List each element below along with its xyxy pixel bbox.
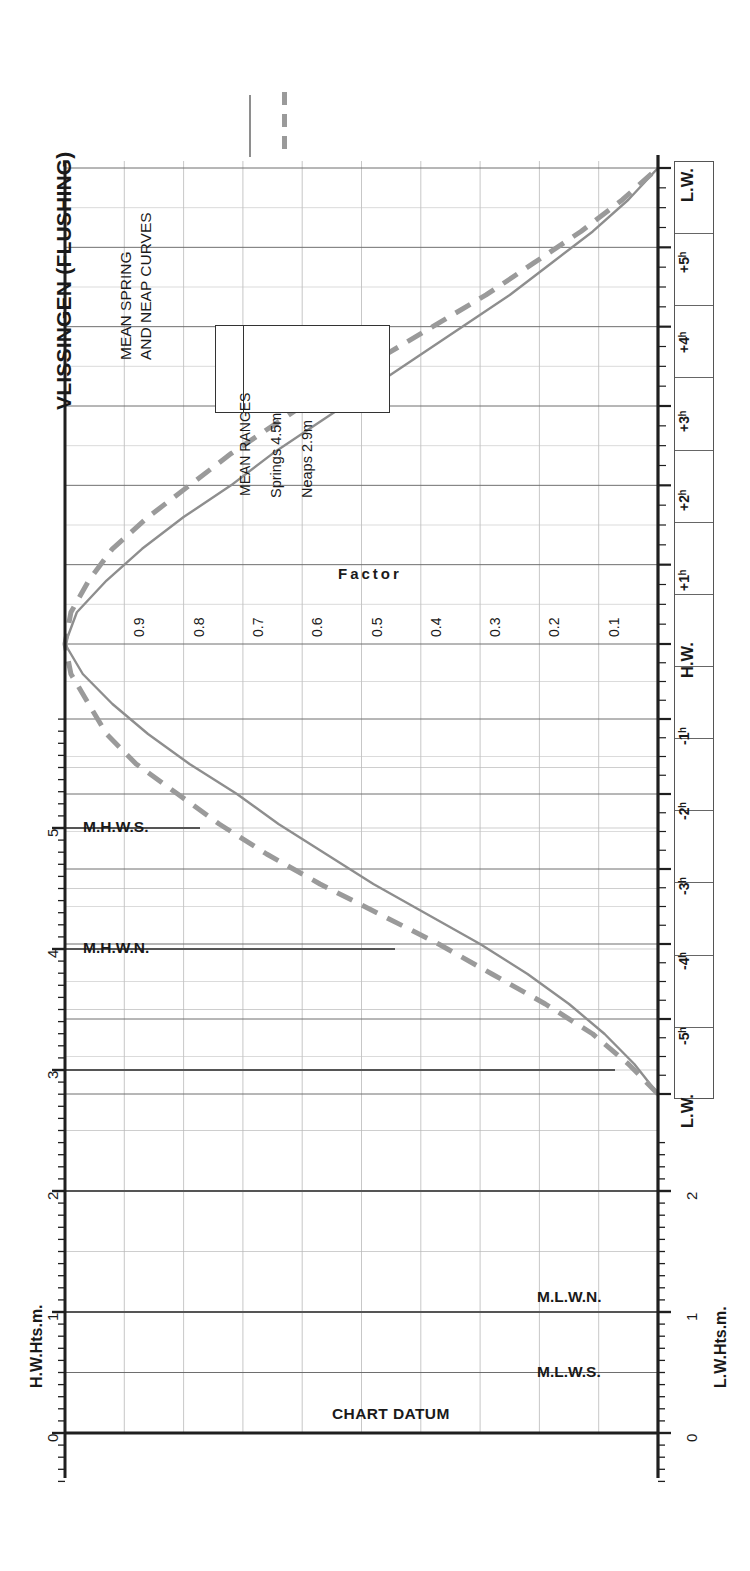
legend-item-neaps: Neaps 2.9m bbox=[299, 420, 315, 498]
legend-swatch-neaps bbox=[282, 92, 287, 158]
factor-tick-0.5: 0.5 bbox=[369, 618, 385, 637]
time-tick-1: +5ʰ bbox=[676, 252, 692, 273]
factor-tick-0.4: 0.4 bbox=[428, 618, 444, 637]
label-chart-datum: CHART DATUM bbox=[332, 1405, 450, 1423]
factor-tick-0.6: 0.6 bbox=[309, 618, 325, 637]
label-mlws: M.L.W.S. bbox=[537, 1363, 601, 1381]
left-axis-tick-2: 2 bbox=[44, 1192, 61, 1200]
label-mlwn: M.L.W.N. bbox=[537, 1288, 602, 1306]
left-axis-tick-0: 0 bbox=[44, 1434, 61, 1442]
time-entry-cell[interactable] bbox=[675, 451, 713, 523]
label-mhwn: M.H.W.N. bbox=[83, 939, 149, 957]
factor-tick-0.3: 0.3 bbox=[487, 618, 503, 637]
time-entry-cell[interactable] bbox=[675, 739, 713, 811]
left-axis-tick-1: 1 bbox=[44, 1313, 61, 1321]
legend-heading-cell: MEAN RANGES bbox=[216, 326, 244, 412]
time-tick-12: L.W. bbox=[678, 1094, 697, 1128]
time-tick-6: H.W. bbox=[678, 642, 697, 678]
time-tick-10: -4ʰ bbox=[676, 952, 692, 970]
time-tick-9: -3ʰ bbox=[676, 877, 692, 895]
factor-axis-label: Factor bbox=[338, 565, 402, 582]
legend-rows: Springs 4.5m Neaps 2.9m bbox=[244, 326, 391, 412]
legend-box: MEAN RANGES Springs 4.5m Neaps 2.9m bbox=[215, 325, 390, 413]
time-tick-0: L.W. bbox=[678, 168, 697, 202]
right-axis-tick-2: 2 bbox=[683, 1192, 700, 1200]
left-axis-title: H.W.Hts.m. bbox=[28, 1304, 46, 1388]
factor-tick-0.2: 0.2 bbox=[546, 618, 562, 637]
left-axis-tick-5: 5 bbox=[44, 829, 61, 837]
factor-tick-0.1: 0.1 bbox=[606, 618, 622, 637]
right-axis-tick-1: 1 bbox=[683, 1313, 700, 1321]
time-tick-3: +3ʰ bbox=[676, 411, 692, 432]
legend-swatch-springs bbox=[249, 95, 251, 157]
time-tick-8: -2ʰ bbox=[676, 802, 692, 820]
left-axis-tick-3: 3 bbox=[44, 1071, 61, 1079]
left-axis-tick-4: 4 bbox=[44, 950, 61, 958]
legend-item-springs: Springs 4.5m bbox=[268, 413, 284, 498]
tidal-curve-chart bbox=[0, 0, 750, 1571]
factor-tick-0.8: 0.8 bbox=[191, 618, 207, 637]
factor-tick-0.9: 0.9 bbox=[131, 618, 147, 637]
time-tick-11: -5ʰ bbox=[676, 1027, 692, 1045]
chart-canvas bbox=[0, 0, 750, 1571]
factor-tick-0.7: 0.7 bbox=[250, 618, 266, 637]
label-mhws: M.H.W.S. bbox=[83, 818, 148, 836]
time-tick-2: +4ʰ bbox=[676, 332, 692, 353]
time-tick-7: -1ʰ bbox=[676, 727, 692, 745]
right-axis-tick-0: 0 bbox=[683, 1434, 700, 1442]
time-tick-5: +1ʰ bbox=[676, 570, 692, 591]
time-tick-4: +2ʰ bbox=[676, 490, 692, 511]
time-entry-cell[interactable] bbox=[675, 811, 713, 883]
right-axis-title: L.W.Hts.m. bbox=[712, 1306, 730, 1388]
